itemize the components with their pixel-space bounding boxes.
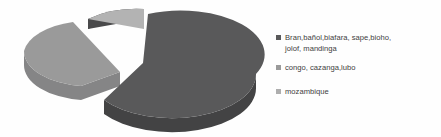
pie-chart-plot-area xyxy=(0,0,272,137)
pie-chart-figure: Bran,bañol,biafara, sape,bioho, jolof, m… xyxy=(0,0,441,137)
pie-chart-svg xyxy=(0,0,272,137)
pie-slice-bran xyxy=(104,11,265,133)
legend-swatch-congo xyxy=(276,65,281,70)
legend-item-mozambique[interactable]: mozambique xyxy=(276,87,441,98)
legend-label-bran: Bran,bañol,biafara, sape,bioho, jolof, m… xyxy=(285,33,391,54)
legend-item-bran[interactable]: Bran,bañol,biafara, sape,bioho, jolof, m… xyxy=(276,33,441,54)
pie-slice-mozambique xyxy=(88,9,144,29)
legend-swatch-mozambique xyxy=(276,89,281,94)
chart-legend: Bran,bañol,biafara, sape,bioho, jolof, m… xyxy=(276,33,441,106)
legend-item-congo[interactable]: congo, cazanga,lubo xyxy=(276,63,441,74)
pie-slice-congo xyxy=(24,22,120,100)
legend-label-congo: congo, cazanga,lubo xyxy=(285,63,355,74)
legend-swatch-bran xyxy=(276,35,281,40)
legend-label-mozambique: mozambique xyxy=(285,87,329,98)
